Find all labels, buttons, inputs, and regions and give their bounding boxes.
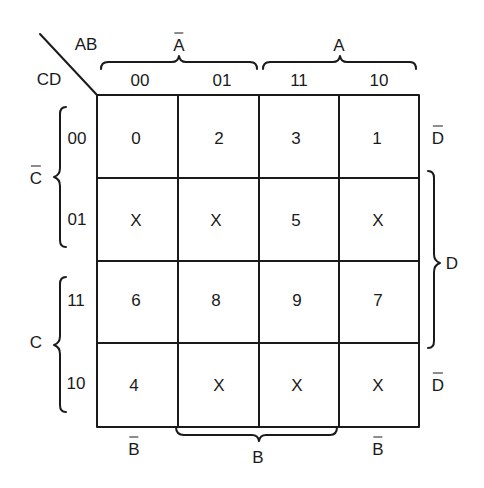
kmap-cell: 5 (291, 212, 300, 229)
brace-a (263, 56, 416, 69)
kmap-cell: 8 (211, 292, 220, 309)
kmap-cell: 0 (131, 130, 140, 147)
label-d: D (446, 255, 458, 272)
label-c-bar: C (30, 170, 42, 187)
row-code-10: 10 (67, 375, 86, 392)
kmap-cell: X (210, 212, 221, 229)
label-b: B (252, 449, 263, 466)
kmap-cell: 4 (129, 377, 138, 394)
col-code-10: 10 (370, 72, 389, 89)
row-code-01: 01 (68, 211, 87, 228)
kmap-cell: X (372, 377, 383, 394)
kmap-cell: X (130, 212, 141, 229)
karnaugh-map: AB CD A A 00 01 11 10 C C 00 01 11 10 D … (0, 0, 484, 488)
label-d-bar-bottom: D (432, 377, 444, 394)
label-c: C (30, 334, 42, 351)
brace-c-bar (54, 107, 66, 247)
kmap-cell: 9 (292, 292, 301, 309)
brace-c (54, 277, 66, 412)
label-b-bar-right: B (372, 441, 383, 458)
kmap-cell: 2 (214, 130, 223, 147)
label-d-bar-top: D (432, 130, 444, 147)
col-code-11: 11 (290, 72, 308, 89)
label-a: A (333, 37, 344, 54)
kmap-cell: 7 (373, 292, 382, 309)
label-b-bar-left: B (128, 441, 139, 458)
col-code-00: 00 (131, 72, 150, 89)
row-code-00: 00 (68, 130, 87, 147)
kmap-cell: 1 (372, 130, 381, 147)
brace-a-bar (101, 56, 257, 69)
kmap-cell: X (372, 212, 383, 229)
brace-d (428, 171, 440, 348)
kmap-cell: X (291, 377, 302, 394)
col-vars-label: CD (37, 71, 62, 88)
row-vars-label: AB (75, 36, 98, 53)
row-code-11: 11 (67, 292, 85, 309)
kmap-cell: 6 (131, 292, 140, 309)
kmap-cell: 3 (291, 130, 300, 147)
col-code-01: 01 (213, 72, 232, 89)
kmap-cell: X (213, 377, 224, 394)
brace-b (176, 427, 337, 441)
kmap-lines (0, 0, 484, 488)
label-a-bar: A (173, 37, 184, 54)
